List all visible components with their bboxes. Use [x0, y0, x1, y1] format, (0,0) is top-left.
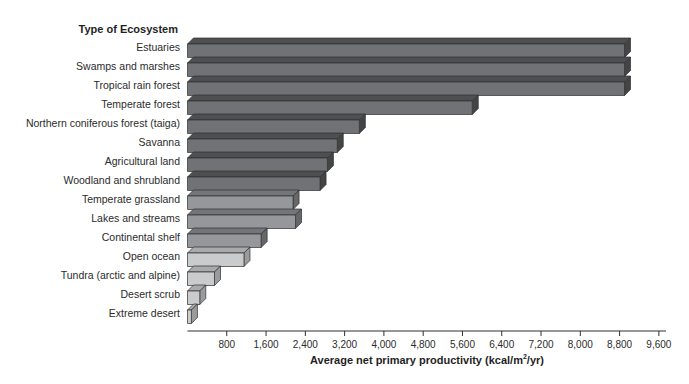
bar-desert-scrub [188, 291, 200, 305]
category-label-savanna: Savanna [139, 136, 181, 148]
x-tick-label-1600: 1,600 [254, 339, 279, 350]
category-label-tundra-arctic-and-alpine: Tundra (arctic and alpine) [61, 269, 180, 281]
bar-woodland-and-shrubland [188, 177, 321, 191]
bar-chart-plot: EstuariesSwamps and marshesTropical rain… [0, 0, 689, 384]
category-label-estuaries: Estuaries [136, 41, 180, 53]
x-tick-label-8800: 8,800 [607, 339, 632, 350]
bar-lakes-and-streams [188, 215, 296, 229]
bar-top-face-swamps-and-marshes [188, 57, 631, 63]
category-label-swamps-and-marshes: Swamps and marshes [76, 60, 180, 72]
category-label-temperate-forest: Temperate forest [101, 98, 180, 110]
bar-savanna [188, 139, 338, 153]
bar-continental-shelf [188, 234, 262, 248]
bar-top-face-continental-shelf [188, 228, 268, 234]
bar-swamps-and-marshes [188, 63, 625, 77]
category-label-open-ocean: Open ocean [123, 250, 180, 262]
x-tick-label-5600: 5,600 [450, 339, 475, 350]
bar-top-face-woodland-and-shrubland [188, 171, 327, 177]
x-tick-label-8000: 8,000 [568, 339, 593, 350]
bar-top-face-savanna [188, 133, 344, 139]
x-tick-label-6400: 6,400 [489, 339, 514, 350]
category-label-woodland-and-shrubland: Woodland and shrubland [63, 174, 180, 186]
bar-top-face-tropical-rain-forest [188, 76, 631, 82]
category-label-continental-shelf: Continental shelf [102, 231, 180, 243]
chart-canvas: Type of Ecosystem EstuariesSwamps and ma… [0, 0, 689, 384]
x-tick-label-4000: 4,000 [371, 339, 396, 350]
bar-open-ocean [188, 253, 244, 267]
category-label-desert-scrub: Desert scrub [120, 288, 180, 300]
x-tick-label-9600: 9,600 [646, 339, 671, 350]
bar-top-face-temperate-grassland [188, 190, 300, 196]
bar-top-face-northern-coniferous-forest-taiga [188, 114, 366, 120]
x-axis-title-text: Average net primary productivity (kcal/m [310, 354, 523, 366]
bar-tropical-rain-forest [188, 82, 625, 96]
bar-extreme-desert [188, 310, 192, 324]
bar-temperate-forest [188, 101, 473, 115]
bar-top-face-estuaries [188, 38, 631, 44]
bar-estuaries [188, 44, 625, 58]
bar-top-face-lakes-and-streams [188, 209, 302, 215]
bar-northern-coniferous-forest-taiga [188, 120, 360, 134]
bar-top-face-temperate-forest [188, 95, 479, 101]
category-label-agricultural-land: Agricultural land [105, 155, 180, 167]
x-axis-title-suffix: /yr) [527, 354, 544, 366]
bar-top-face-agricultural-land [188, 152, 334, 158]
x-tick-label-7200: 7,200 [529, 339, 554, 350]
x-axis-title: Average net primary productivity (kcal/m… [310, 353, 544, 366]
bar-tundra-arctic-and-alpine [188, 272, 215, 286]
bar-top-face-open-ocean [188, 247, 250, 253]
bar-agricultural-land [188, 158, 328, 172]
bar-temperate-grassland [188, 196, 294, 210]
category-label-lakes-and-streams: Lakes and streams [91, 212, 180, 224]
category-label-tropical-rain-forest: Tropical rain forest [93, 79, 180, 91]
category-label-temperate-grassland: Temperate grassland [82, 193, 180, 205]
x-tick-label-800: 800 [218, 339, 235, 350]
x-tick-label-2400: 2,400 [293, 339, 318, 350]
category-label-northern-coniferous-forest-taiga: Northern coniferous forest (taiga) [26, 117, 180, 129]
category-label-extreme-desert: Extreme desert [109, 307, 180, 319]
x-tick-label-4800: 4,800 [411, 339, 436, 350]
x-tick-label-3200: 3,200 [332, 339, 357, 350]
